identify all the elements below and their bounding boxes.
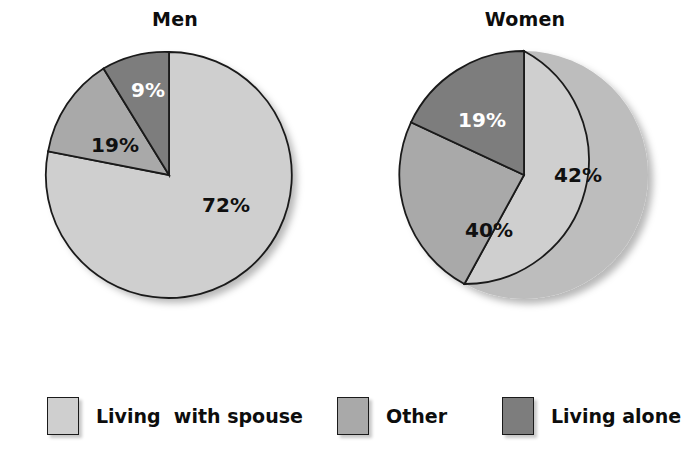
pie-women-label-other: 40%: [465, 218, 513, 242]
legend-item-other[interactable]: Other: [337, 394, 447, 438]
legend-label-other: Other: [386, 407, 447, 426]
chart-title-women: Women: [465, 8, 585, 30]
pie-women-svg: 42% 40% 19%: [392, 42, 664, 314]
pie-men-label-living-alone: 9%: [131, 78, 165, 102]
pie-chart-women: 42% 40% 19%: [392, 42, 664, 314]
legend-label-living-with-spouse: Living with spouse: [96, 407, 303, 426]
legend-item-living-alone[interactable]: Living alone: [502, 394, 681, 438]
pie-women-label-living-with-spouse: 42%: [554, 163, 602, 187]
pie-men-svg: 72% 19% 9%: [38, 42, 308, 314]
pie-women-label-living-alone: 19%: [458, 108, 506, 132]
legend-swatch-living-alone: [502, 397, 534, 435]
pie-chart-figure: Men 72% 19% 9% Women: [0, 0, 693, 453]
legend-swatch-other: [337, 397, 369, 435]
legend-label-living-alone: Living alone: [551, 407, 681, 426]
pie-men-label-living-with-spouse: 72%: [202, 193, 250, 217]
chart-legend: Living with spouse Other Living alone: [0, 392, 693, 450]
legend-swatch-living-with-spouse: [47, 397, 79, 435]
legend-item-living-with-spouse[interactable]: Living with spouse: [47, 394, 303, 438]
chart-title-men: Men: [115, 8, 235, 30]
pie-chart-men: 72% 19% 9%: [38, 42, 308, 314]
pie-men-label-other: 19%: [91, 133, 139, 157]
